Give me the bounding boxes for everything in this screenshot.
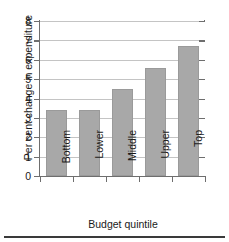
x-tick-3: [172, 177, 173, 182]
x-tick-0: [73, 177, 74, 182]
x-category-label-lower: Lower: [94, 130, 105, 186]
x-tick-2: [139, 177, 140, 182]
y-tick-5: [34, 79, 40, 80]
cut-off-caption-text: [6, 0, 216, 5]
x-category-label-upper: Upper: [160, 130, 171, 186]
gridline-8: [40, 21, 205, 22]
x-category-label-middle: Middle: [127, 130, 138, 186]
y-tick-3: [34, 118, 40, 119]
y-tick-right-8: [199, 21, 205, 22]
y-tick-right-4: [199, 99, 205, 100]
x-tick-origin: [40, 177, 41, 182]
x-category-label-bottom: Bottom: [61, 130, 72, 186]
y-tick-right-5: [199, 79, 205, 80]
y-tick-right-6: [199, 60, 205, 61]
y-tick-2: [34, 137, 40, 138]
y-tick-right-3: [199, 118, 205, 119]
y-tick-right-7: [199, 40, 205, 41]
x-tick-4: [205, 177, 206, 182]
y-tick-8: [34, 21, 40, 22]
x-axis-title: Budget quintile: [40, 219, 206, 230]
y-tick-7: [34, 40, 40, 41]
y-tick-4: [34, 99, 40, 100]
x-category-label-top: Top: [193, 130, 204, 186]
y-tick-1: [34, 157, 40, 158]
figure-container: 012345678 BottomLowerMiddleUpperTop Per …: [0, 0, 229, 242]
y-tick-6: [34, 60, 40, 61]
x-tick-1: [106, 177, 107, 182]
gridline-7: [40, 40, 205, 41]
bottom-divider-rule: [4, 236, 225, 238]
y-axis-title: Per cent change in expenditure: [23, 8, 34, 168]
y-tick-label-0: 0: [18, 171, 31, 181]
